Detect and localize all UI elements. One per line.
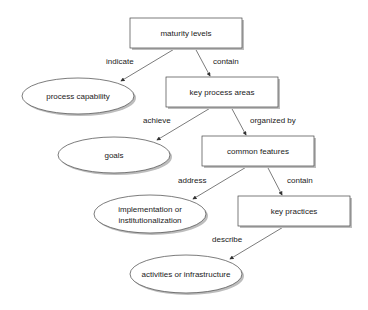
edge-label-organized-by: organized by — [250, 116, 296, 125]
edge-contain-kpa — [195, 48, 210, 76]
edge-label-describe: describe — [212, 235, 243, 244]
node-label: goals — [104, 151, 123, 160]
node-label: activities or infrastructure — [142, 270, 231, 279]
node-activities-or-infrastructure: activities or infrastructure — [130, 255, 244, 295]
edge-organized-by — [231, 107, 246, 135]
cmm-structure-diagram: indicate contain achieve organized by ad… — [0, 0, 368, 310]
node-process-capability: process capability — [22, 78, 136, 116]
node-maturity-levels: maturity levels — [130, 18, 244, 50]
node-implementation-or-institutionalization: implementation or institutionalization — [94, 195, 208, 235]
node-label: maturity levels — [160, 29, 211, 38]
edge-contain-kp — [267, 166, 282, 195]
node-label: key practices — [271, 207, 318, 216]
edge-label-contain-kpa: contain — [213, 57, 239, 66]
edge-label-indicate: indicate — [106, 57, 134, 66]
node-label-line2: institutionalization — [118, 216, 181, 225]
node-label: key process areas — [190, 88, 255, 97]
edge-label-contain-kp: contain — [287, 176, 313, 185]
node-common-features: common features — [202, 136, 316, 168]
node-label: common features — [227, 147, 289, 156]
node-goals: goals — [58, 137, 172, 175]
edge-label-achieve: achieve — [143, 116, 171, 125]
node-label-line1: implementation or — [118, 205, 182, 214]
edge-label-address: address — [178, 176, 206, 185]
node-key-practices: key practices — [238, 196, 352, 228]
node-key-process-areas: key process areas — [166, 77, 280, 109]
node-label: process capability — [46, 92, 110, 101]
